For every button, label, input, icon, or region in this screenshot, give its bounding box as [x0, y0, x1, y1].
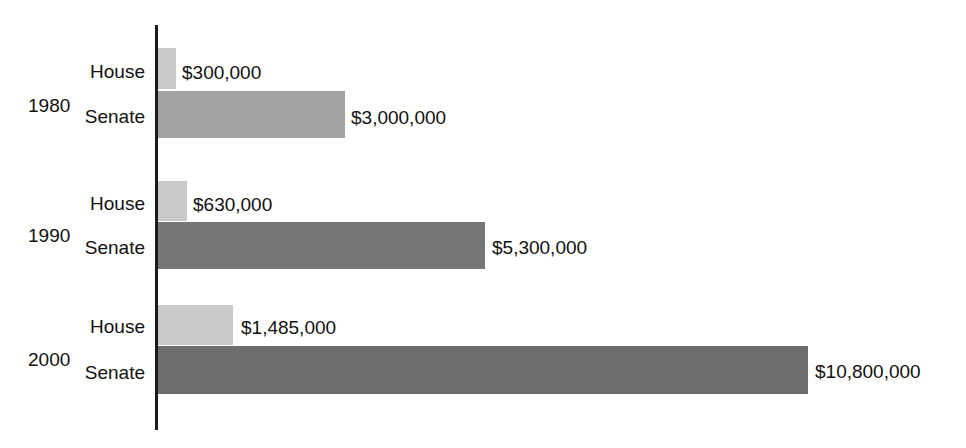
category-label-2000-senate: Senate	[5, 363, 145, 382]
value-label-2000-senate: $10,800,000	[815, 362, 921, 381]
bar-chart: House 1980 Senate $300,000 $3,000,000 Ho…	[0, 0, 966, 448]
value-label-1980-senate: $3,000,000	[351, 108, 446, 127]
bar-1980-house	[158, 48, 176, 89]
value-label-1990-house: $630,000	[193, 195, 272, 214]
bar-1990-house	[158, 181, 187, 221]
bar-2000-house	[158, 305, 233, 345]
bar-2000-senate	[158, 346, 808, 394]
bar-1990-senate	[158, 222, 485, 269]
value-label-2000-house: $1,485,000	[241, 318, 336, 337]
bar-1980-senate	[158, 91, 345, 138]
category-label-2000-house: House	[5, 317, 145, 336]
value-label-1980-house: $300,000	[182, 63, 261, 82]
category-label-1980-senate: Senate	[5, 107, 145, 126]
category-label-1980-house: House	[5, 62, 145, 81]
category-label-1990-senate: Senate	[5, 238, 145, 257]
category-label-1990-house: House	[5, 194, 145, 213]
value-label-1990-senate: $5,300,000	[492, 238, 587, 257]
